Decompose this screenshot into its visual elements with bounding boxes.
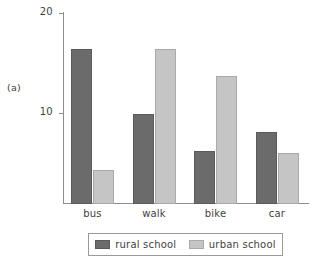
bar-bike-rural-school	[194, 151, 215, 204]
legend-swatch-icon	[95, 240, 110, 249]
legend-swatch-icon	[189, 240, 204, 249]
bar-bike-urban-school	[216, 76, 237, 204]
panel-label: (a)	[7, 82, 21, 93]
legend-item-urban-school: urban school	[189, 239, 276, 250]
x-axis-label-bus: bus	[71, 204, 114, 219]
x-axis-label-walk: walk	[133, 204, 176, 219]
y-tick-label: 20	[40, 6, 59, 17]
bar-bus-urban-school	[93, 170, 114, 204]
plot-area: buswalkbikecar	[63, 12, 309, 204]
legend-label: urban school	[209, 239, 276, 250]
bar-car-rural-school	[256, 132, 277, 204]
chart-legend: rural schoolurban school	[88, 233, 283, 256]
legend-label: rural school	[115, 239, 176, 250]
bar-bus-rural-school	[71, 49, 92, 204]
figure-panel: (a) 1020 buswalkbikecar rural schoolurba…	[0, 0, 323, 271]
bar-walk-urban-school	[155, 49, 176, 204]
x-axis-label-car: car	[256, 204, 299, 219]
bar-car-urban-school	[278, 153, 299, 204]
y-tick-label: 10	[40, 106, 59, 117]
bar-group-bus: bus	[71, 13, 114, 204]
bar-group-bike: bike	[194, 13, 237, 204]
bar-group-car: car	[256, 13, 299, 204]
bar-walk-rural-school	[133, 114, 154, 204]
legend-item-rural-school: rural school	[95, 239, 176, 250]
x-axis-label-bike: bike	[194, 204, 237, 219]
bar-group-walk: walk	[133, 13, 176, 204]
